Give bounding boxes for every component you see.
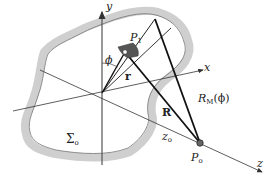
sigma-label-sub: o [74,139,78,147]
diagram: y x z ϕ P1 r R RM(ϕ) zo Po Σo [0,0,274,186]
y-axis-label: y [106,1,112,12]
z0-label: zo [162,131,172,144]
p1-point [123,50,127,54]
p1-label: P1 [130,32,142,45]
rm-label: RM(ϕ) [198,93,230,106]
p0-label: Po [191,152,203,165]
sigma-label: Σo [66,133,79,147]
phi-label: ϕ [105,55,113,66]
r-vector-label: r [125,71,131,82]
R-vector-label: R [162,107,171,118]
z-axis-label: z [257,158,263,169]
p1-label-sub: 1 [137,37,141,45]
diagram-canvas [0,0,274,186]
rm-label-arg: (ϕ) [213,92,229,105]
p0-label-sub: o [198,157,202,165]
p0-point [197,140,203,146]
z0-label-sub: o [168,136,172,144]
x-axis-label: x [204,62,210,73]
p1-patch [118,43,138,58]
